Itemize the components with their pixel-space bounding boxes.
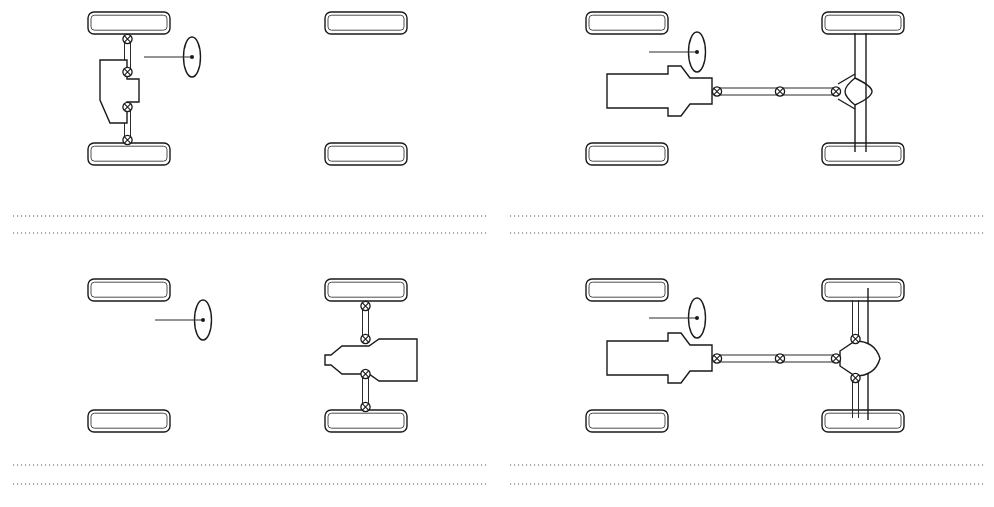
cv-joint-outer-left	[123, 34, 132, 43]
wheel-rear-left	[325, 279, 407, 301]
final-drive-housing	[840, 341, 880, 376]
wheel-rear-left	[822, 279, 904, 301]
universal-joint-center	[775, 87, 784, 96]
panel-bottom-right	[586, 279, 904, 432]
cv-joint-outer-right	[123, 135, 132, 144]
steering-wheel-assembly	[155, 300, 212, 340]
wheel-front-left	[586, 279, 668, 301]
wheel-front-left	[586, 12, 668, 34]
engine-gearbox-longitudinal	[607, 333, 712, 383]
cv-joint-inner-right	[123, 102, 132, 111]
wheel-front-right	[586, 410, 668, 432]
panel-top-left	[88, 12, 407, 165]
steering-wheel-assembly	[144, 37, 201, 77]
universal-joint-gearbox	[712, 87, 721, 96]
wheel-rear-right	[822, 410, 904, 432]
drivetrain-figure	[0, 0, 994, 507]
wheel-front-right	[88, 143, 170, 165]
cv-joint-rear-left	[851, 334, 860, 343]
wheel-rear-right	[325, 410, 407, 432]
steering-wheel-assembly	[649, 298, 706, 338]
wheel-rear-left	[325, 12, 407, 34]
universal-joint-gearbox	[712, 354, 721, 363]
wheel-front-left	[88, 279, 170, 301]
wheel-front-right	[88, 410, 170, 432]
engine-transverse	[325, 339, 417, 381]
panel-bottom-left	[88, 279, 417, 432]
panel-top-right	[586, 12, 904, 165]
universal-joint-differential	[831, 354, 840, 363]
separator-rules	[13, 216, 984, 484]
cv-joint-inner-left	[123, 67, 132, 76]
live-rear-axle	[838, 33, 872, 152]
figure-canvas	[0, 0, 994, 507]
cv-joint-rear-right	[851, 373, 860, 382]
engine-gearbox-longitudinal	[607, 66, 712, 116]
wheel-rear-left	[822, 12, 904, 34]
wheel-rear-right	[822, 143, 904, 165]
engine-transverse	[100, 60, 139, 123]
wheel-front-right	[586, 143, 668, 165]
cv-joint-inner-left	[361, 334, 370, 343]
wheel-front-left	[88, 12, 170, 34]
cv-joint-outer-right	[361, 402, 370, 411]
wheel-rear-right	[325, 143, 407, 165]
universal-joint-differential	[831, 87, 840, 96]
universal-joint-center	[775, 354, 784, 363]
cv-joint-inner-right	[361, 369, 370, 378]
cv-joint-outer-left	[361, 301, 370, 310]
